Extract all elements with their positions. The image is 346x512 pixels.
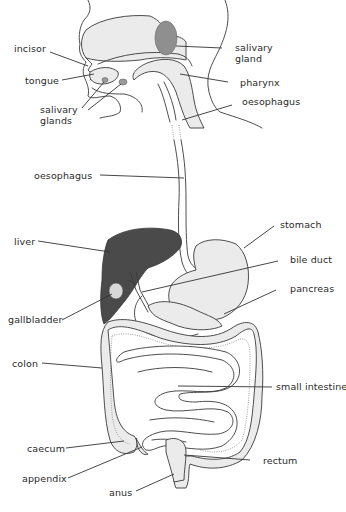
small-intestine-shape <box>117 346 240 450</box>
label-gallbladder: gallbladder <box>8 314 63 325</box>
label-stomach: stomach <box>280 219 322 230</box>
label-incisor: incisor <box>14 43 46 54</box>
head-section <box>79 0 262 128</box>
oesophagus-dotted-top <box>172 125 181 140</box>
label-oesophagus-middle: oesophagus <box>34 170 92 181</box>
salivary-gland-shape <box>155 21 177 55</box>
label-bile-duct: bile duct <box>290 254 332 265</box>
leader-appendix <box>68 447 142 478</box>
label-oesophagus-upper: oesophagus <box>242 96 300 107</box>
label-pharynx: pharynx <box>240 77 280 88</box>
head-back-outline <box>208 0 262 128</box>
leader-tongue <box>62 74 94 80</box>
salivary-gland-small-1 <box>102 78 108 83</box>
leader-incisor <box>50 52 88 66</box>
oesophagus-left-wall <box>174 140 196 278</box>
label-small-intestine: small intestine <box>276 381 346 392</box>
gallbladder-shape <box>109 283 123 299</box>
leader-salivary-glands-1 <box>82 82 104 108</box>
label-pancreas: pancreas <box>290 283 334 294</box>
leader-salivary-glands-2 <box>88 84 121 110</box>
label-salivary-gland: salivary gland <box>235 42 273 64</box>
label-rectum: rectum <box>263 455 297 466</box>
leader-anus <box>136 474 174 491</box>
label-anus: anus <box>109 487 132 498</box>
label-liver: liver <box>14 236 35 247</box>
label-appendix: appendix <box>22 473 67 484</box>
leader-stomach <box>244 226 274 248</box>
label-caecum: caecum <box>27 443 65 454</box>
leader-oesophagus-middle <box>100 175 184 178</box>
leader-liver <box>38 241 110 252</box>
trachea <box>158 82 176 122</box>
label-colon: colon <box>12 358 38 369</box>
rectum-shape <box>166 439 186 483</box>
digestive-system-diagram: incisor tongue salivary glands salivary … <box>0 0 346 512</box>
label-salivary-glands: salivary glands <box>40 104 78 126</box>
leader-colon <box>42 363 102 368</box>
label-tongue: tongue <box>25 75 59 86</box>
